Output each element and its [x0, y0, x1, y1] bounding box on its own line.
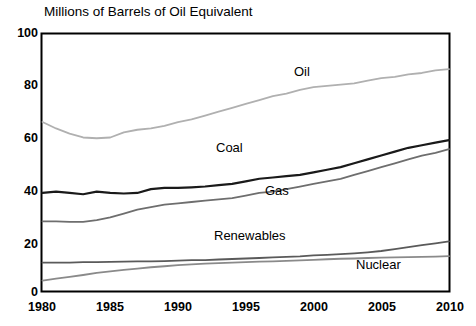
chart-container: Millions of Barrels of Oil Equivalent 10…: [0, 0, 476, 326]
x-tick-label: 1980: [19, 300, 65, 314]
y-tick-label: 0: [4, 285, 38, 299]
plot-area: [0, 0, 476, 326]
x-tick-label: 1985: [87, 300, 133, 314]
series-label-gas: Gas: [265, 183, 289, 198]
series-line-oil: [43, 69, 450, 138]
y-tick-label: 60: [4, 131, 38, 145]
series-label-renewables: Renewables: [214, 228, 286, 243]
x-tick-label: 2005: [359, 300, 405, 314]
x-tick-label: 1990: [155, 300, 201, 314]
y-tick-label: 80: [4, 78, 38, 92]
series-line-gas: [43, 149, 450, 222]
plot-frame: [42, 34, 450, 292]
x-tick-label: 1995: [223, 300, 269, 314]
series-label-coal: Coal: [216, 140, 243, 155]
series-label-nuclear: Nuclear: [356, 257, 401, 272]
y-tick-label: 40: [4, 184, 38, 198]
x-tick-label: 2000: [291, 300, 337, 314]
y-tick-label: 20: [4, 237, 38, 251]
series-group: [43, 69, 450, 281]
series-line-coal: [43, 140, 450, 194]
y-tick-label: 100: [4, 26, 38, 40]
x-tick-label: 2010: [427, 300, 473, 314]
series-label-oil: Oil: [294, 64, 310, 79]
